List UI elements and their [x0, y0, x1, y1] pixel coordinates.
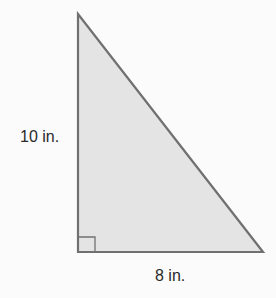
triangle-figure: [0, 0, 276, 298]
right-triangle-diagram: 10 in. 8 in.: [0, 0, 276, 298]
right-triangle: [78, 14, 263, 252]
height-label: 10 in.: [20, 129, 59, 145]
base-label: 8 in.: [155, 268, 185, 284]
